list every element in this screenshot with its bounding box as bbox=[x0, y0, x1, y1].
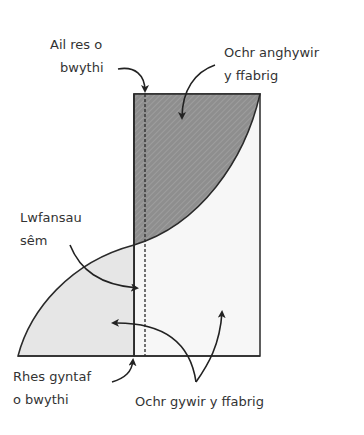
label-seam-allowance: Lwfansau sêm bbox=[20, 210, 86, 248]
arrow-first-row bbox=[112, 360, 133, 382]
label-right-side: Ochr gywir y ffabrig bbox=[135, 394, 264, 409]
seam-diagram: Ail res o bwythi Ochr anghywir y ffabrig… bbox=[0, 0, 364, 435]
arrow-second-row bbox=[118, 68, 145, 91]
label-second-row: Ail res o bwythi bbox=[50, 37, 106, 75]
label-wrong-side: Ochr anghywir y ffabrig bbox=[224, 45, 323, 83]
label-first-row: Rhes gyntaf o bwythi bbox=[13, 369, 95, 407]
folded-right-side-region bbox=[18, 245, 134, 356]
